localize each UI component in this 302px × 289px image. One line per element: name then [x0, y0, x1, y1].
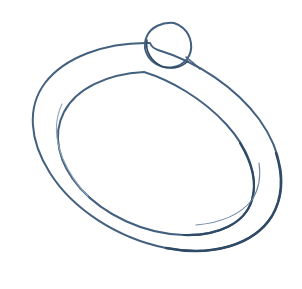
sketch-canvas — [0, 0, 302, 289]
ring-sketch-drawing — [0, 0, 302, 289]
